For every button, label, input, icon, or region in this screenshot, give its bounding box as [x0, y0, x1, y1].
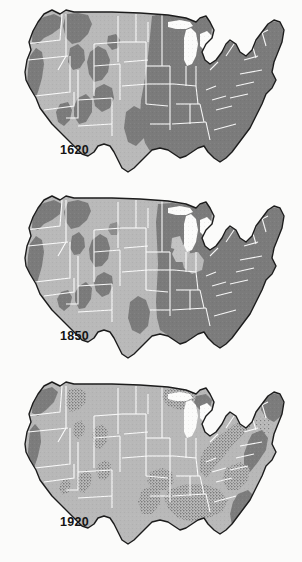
- paper-grain: [0, 0, 302, 186]
- year-label-1920: 1920: [60, 515, 89, 529]
- us-map-1620: [0, 0, 302, 186]
- map-body-1620: [0, 0, 302, 186]
- us-map-1920: [0, 372, 302, 558]
- paper-grain: [0, 372, 302, 558]
- year-label-1620: 1620: [60, 143, 89, 157]
- map-panel-1850: 1850: [0, 186, 302, 372]
- year-label-1850: 1850: [60, 329, 89, 343]
- paper-grain: [0, 186, 302, 372]
- map-body-1920: [0, 372, 302, 558]
- map-body-1850: [0, 186, 302, 372]
- forest-cover-figure: 1620: [0, 0, 302, 562]
- map-panel-1620: 1620: [0, 0, 302, 186]
- map-panel-1920: 1920: [0, 372, 302, 558]
- us-map-1850: [0, 186, 302, 372]
